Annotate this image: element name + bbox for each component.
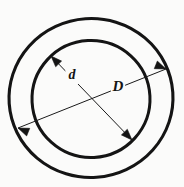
outer-diameter-line (18, 69, 166, 128)
inner-diameter-line (51, 56, 132, 140)
annulus-diagram: d D (0, 0, 184, 187)
inner-diameter-label: d (69, 67, 77, 82)
outer-diameter-label: D (112, 78, 124, 94)
diagram-canvas: d D (0, 0, 184, 187)
